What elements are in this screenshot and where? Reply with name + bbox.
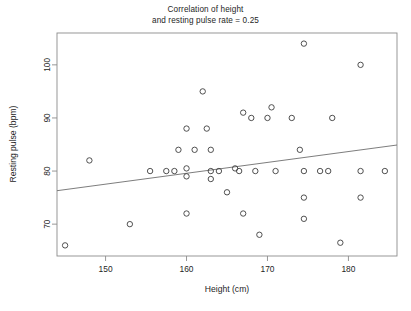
x-tick-label: 150 bbox=[99, 264, 113, 274]
data-point bbox=[208, 168, 213, 173]
data-point bbox=[184, 211, 189, 216]
x-tick-label: 160 bbox=[180, 264, 194, 274]
data-point bbox=[265, 115, 270, 120]
data-point bbox=[257, 232, 262, 237]
data-point bbox=[301, 168, 306, 173]
data-point bbox=[176, 147, 181, 152]
data-point bbox=[127, 221, 132, 226]
data-point bbox=[240, 110, 245, 115]
data-point bbox=[200, 89, 205, 94]
data-point bbox=[358, 195, 363, 200]
y-tick-label: 100 bbox=[42, 58, 52, 72]
data-point bbox=[269, 105, 274, 110]
plot-frame bbox=[57, 33, 397, 256]
data-point bbox=[338, 240, 343, 245]
data-point bbox=[192, 147, 197, 152]
x-axis-ticks: 150160170180 bbox=[99, 256, 356, 274]
y-tick-label: 90 bbox=[42, 113, 52, 123]
axis-titles: Height (cm) Resting pulse (bpm) bbox=[8, 105, 249, 294]
data-point bbox=[172, 168, 177, 173]
y-axis-title: Resting pulse (bpm) bbox=[8, 105, 18, 182]
plot-canvas: 150160170180 708090100 Height (cm) Resti… bbox=[0, 0, 411, 311]
y-tick-label: 80 bbox=[42, 166, 52, 176]
data-points-group bbox=[62, 41, 387, 248]
data-point bbox=[358, 62, 363, 67]
data-point bbox=[325, 168, 330, 173]
data-point bbox=[62, 243, 67, 248]
x-tick-label: 170 bbox=[260, 264, 274, 274]
data-point bbox=[204, 126, 209, 131]
x-tick-label: 180 bbox=[341, 264, 355, 274]
data-point bbox=[253, 168, 258, 173]
data-point bbox=[147, 168, 152, 173]
data-point bbox=[297, 147, 302, 152]
regression-trend-line bbox=[57, 145, 397, 191]
data-point bbox=[358, 168, 363, 173]
trend-line bbox=[57, 145, 397, 191]
y-axis-ticks: 708090100 bbox=[42, 58, 57, 229]
data-point bbox=[249, 115, 254, 120]
data-point bbox=[208, 147, 213, 152]
data-point bbox=[87, 158, 92, 163]
data-point bbox=[330, 115, 335, 120]
data-point bbox=[184, 166, 189, 171]
data-point bbox=[317, 168, 322, 173]
data-point bbox=[289, 115, 294, 120]
data-point bbox=[208, 176, 213, 181]
data-point bbox=[301, 216, 306, 221]
data-point bbox=[224, 190, 229, 195]
data-point bbox=[301, 41, 306, 46]
data-point bbox=[164, 168, 169, 173]
data-point bbox=[184, 126, 189, 131]
scatter-plot-figure: Correlation of height and resting pulse … bbox=[0, 0, 411, 311]
data-point bbox=[301, 195, 306, 200]
y-tick-label: 70 bbox=[42, 219, 52, 229]
data-point bbox=[382, 168, 387, 173]
data-point bbox=[236, 168, 241, 173]
data-point bbox=[273, 168, 278, 173]
data-point bbox=[240, 211, 245, 216]
x-axis-title: Height (cm) bbox=[205, 284, 250, 294]
data-point bbox=[184, 174, 189, 179]
